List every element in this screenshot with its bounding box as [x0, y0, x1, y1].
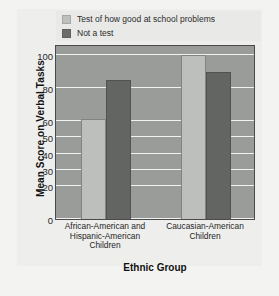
x-axis-title: Ethnic Group [55, 262, 255, 273]
y-tick-label: 50 [19, 134, 53, 143]
y-axis-tick-labels: 0203040506080100 [15, 45, 53, 220]
light-swatch-icon [62, 15, 71, 24]
chart-figure: Test of how good at school problems Not … [0, 0, 279, 296]
y-tick-label: 0 [19, 216, 53, 225]
y-tick-label: 40 [19, 150, 53, 159]
y-tick-label: 100 [19, 52, 53, 61]
x-category-label-2: Caucasian-American Children [155, 222, 255, 260]
plot-area [55, 45, 255, 220]
chart-legend: Test of how good at school problems Not … [56, 11, 261, 41]
bar-test-group-1 [81, 119, 106, 219]
x-category-label-2-line2: Children [156, 232, 254, 242]
legend-item-not-a-test: Not a test [62, 27, 261, 39]
y-tick-label: 30 [19, 166, 53, 175]
y-tick-label: 20 [19, 183, 53, 192]
y-tick-label: 60 [19, 117, 53, 126]
dark-swatch-icon [62, 29, 71, 38]
bar-test-group-2 [181, 55, 206, 219]
bar-not-a-test-group-1 [106, 80, 131, 219]
bar-not-a-test-group-2 [206, 72, 231, 219]
x-category-label-1-line3: Children [56, 241, 154, 251]
bar-series-container [56, 46, 254, 219]
y-tick-label: 80 [19, 85, 53, 94]
legend-label-test: Test of how good at school problems [77, 14, 215, 24]
x-axis-category-labels: African-American and Hispanic-American C… [55, 222, 255, 260]
legend-item-test: Test of how good at school problems [62, 13, 261, 25]
legend-label-not-a-test: Not a test [77, 28, 113, 38]
x-category-label-1: African-American and Hispanic-American C… [55, 222, 155, 260]
